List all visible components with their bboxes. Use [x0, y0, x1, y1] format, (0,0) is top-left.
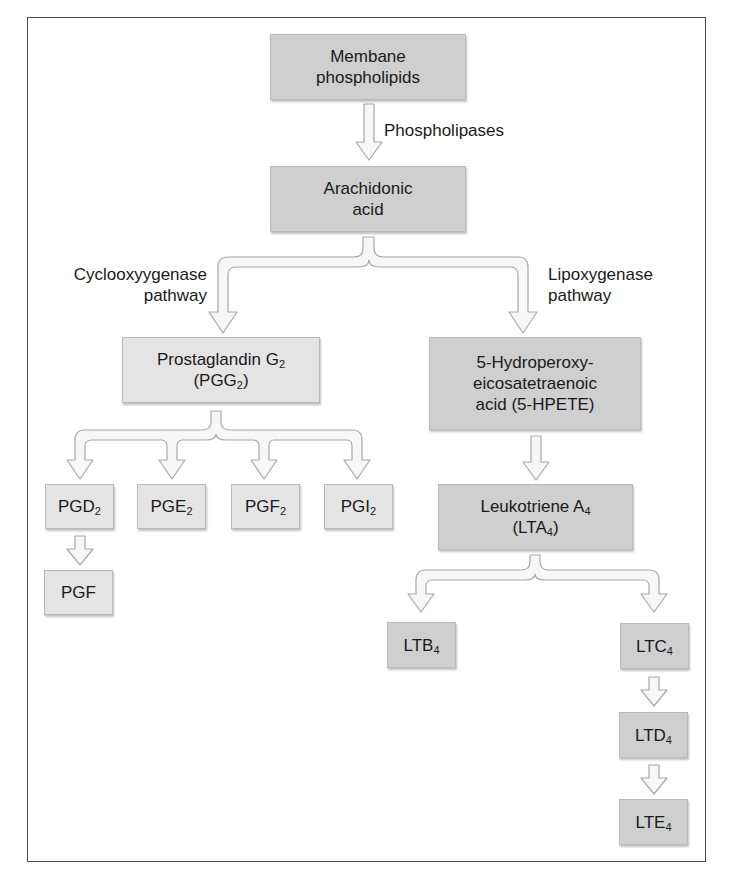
node-text: PGF — [61, 582, 96, 603]
node-text: PGF2 — [245, 496, 286, 517]
node-prostaglandin-g2: Prostaglandin G2 (PGG2) — [122, 337, 320, 403]
text-main: ) — [243, 371, 249, 390]
node-text: eicosatetraenoic — [473, 373, 597, 394]
text-subscript: 4 — [665, 821, 671, 833]
arrow-pgg2-branch — [67, 411, 370, 479]
arrow-membrane-to-arachidonic — [356, 104, 382, 160]
text-main: PGD — [58, 497, 95, 516]
text-main: PGI — [341, 497, 370, 516]
text-main: (PGG — [193, 371, 236, 390]
text-subscript: 4 — [667, 645, 673, 657]
node-lte4: LTE4 — [619, 799, 688, 845]
label-phospholipases: Phospholipases — [384, 120, 504, 141]
text-subscript: 4 — [666, 734, 672, 746]
node-5-hpete: 5-Hydroperoxy- eicosatetraenoic acid (5-… — [429, 337, 641, 430]
node-arachidonic-acid: Arachidonic acid — [270, 166, 466, 232]
node-ltd4: LTD4 — [619, 712, 688, 758]
text-main: Leukotriene A — [480, 497, 584, 516]
text-main: PGE — [150, 497, 186, 516]
node-pgf: PGF — [44, 570, 113, 615]
node-text: Membane — [330, 46, 406, 67]
node-leukotriene-a4: Leukotriene A4 (LTA4) — [438, 484, 633, 550]
node-ltc4: LTC4 — [620, 623, 689, 669]
label-line: pathway — [42, 285, 207, 306]
arrow-pgd2-to-pgf — [67, 536, 93, 565]
text-main: ) — [553, 518, 559, 537]
text-subscript: 4 — [433, 644, 439, 656]
node-text: 5-Hydroperoxy- — [476, 352, 593, 373]
node-text: (LTA4) — [512, 517, 558, 538]
node-text: Prostaglandin G2 — [157, 349, 285, 370]
label-line: Lipoxygenase — [548, 264, 653, 285]
node-text: PGE2 — [150, 496, 192, 517]
text-subscript: 2 — [279, 358, 285, 370]
text-subscript: 2 — [280, 505, 286, 517]
text-main: LTB — [403, 636, 433, 655]
node-text: Leukotriene A4 — [480, 496, 590, 517]
text-main: PGF — [245, 497, 280, 516]
text-subscript: 2 — [186, 505, 192, 517]
text-main: LTD — [635, 726, 666, 745]
text-main: Prostaglandin G — [157, 350, 279, 369]
label-line: Cyclooxyygenase — [42, 264, 207, 285]
node-text: LTB4 — [403, 635, 439, 656]
text-main: LTE — [635, 813, 665, 832]
node-text: acid — [352, 199, 383, 220]
label-cyclooxygenase-pathway: Cyclooxyygenase pathway — [42, 264, 207, 306]
node-text: LTE4 — [635, 812, 671, 833]
node-text: LTC4 — [636, 636, 673, 657]
arrow-hpete-to-lta4 — [523, 436, 549, 480]
label-lipoxygenase-pathway: Lipoxygenase pathway — [548, 264, 653, 306]
node-text: PGI2 — [341, 496, 376, 517]
arrow-ltd4-to-lte4 — [641, 765, 667, 794]
node-text: Arachidonic — [324, 178, 413, 199]
node-pgi2: PGI2 — [324, 484, 393, 529]
node-membrane-phospholipids: Membane phospholipids — [270, 34, 466, 100]
node-text: PGD2 — [58, 496, 101, 517]
node-pgd2: PGD2 — [45, 484, 114, 529]
node-ltb4: LTB4 — [387, 622, 456, 668]
text-main: (LTA — [512, 518, 546, 537]
node-text: LTD4 — [635, 725, 672, 746]
text-subscript: 2 — [370, 505, 376, 517]
node-text: phospholipids — [316, 67, 420, 88]
text-main: LTC — [636, 637, 667, 656]
text-subscript: 4 — [584, 505, 590, 517]
node-text: acid (5-HPETE) — [475, 394, 594, 415]
text-subscript: 2 — [95, 505, 101, 517]
arrow-lta4-branch — [408, 555, 667, 612]
arrow-ltc4-to-ltd4 — [641, 677, 667, 706]
label-line: pathway — [548, 285, 653, 306]
node-text: (PGG2) — [193, 370, 248, 391]
node-pge2: PGE2 — [137, 484, 206, 529]
arrow-arachidonic-branch — [209, 237, 537, 333]
node-pgf2: PGF2 — [231, 484, 300, 529]
